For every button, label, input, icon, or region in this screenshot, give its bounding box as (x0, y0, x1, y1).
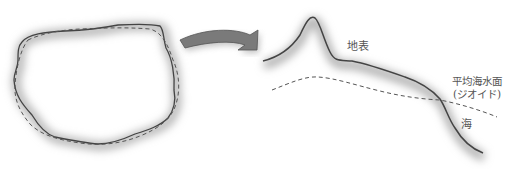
diagram-canvas (0, 0, 512, 169)
sea-label: 海 (461, 118, 472, 132)
earth-shape (14, 24, 179, 146)
geoid-label-line2: (ジオイド) (452, 88, 502, 101)
geoid-label-line1: 平均海水面 (452, 75, 502, 88)
geoid-label: 平均海水面 (ジオイド) (452, 75, 502, 101)
transition-arrow-icon (180, 30, 260, 53)
ground-surface-line (263, 17, 483, 153)
surface-label: 地表 (347, 40, 369, 54)
